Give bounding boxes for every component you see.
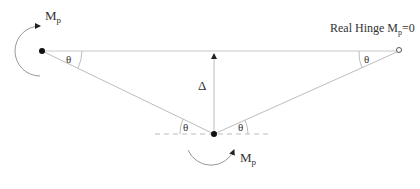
- plastic-hinge-left: [39, 48, 45, 54]
- real-hinge-label: Real Hinge Mp=0: [330, 21, 415, 37]
- angle-arc-left: [78, 51, 82, 68]
- angle-arc-bottom-right: [245, 120, 248, 134]
- plastic-hinge-bottom: [211, 131, 217, 137]
- bottom-moment-label: Mp: [240, 150, 257, 167]
- real-hinge-right: [397, 48, 402, 53]
- angle-arc-right: [359, 51, 362, 68]
- angle-label-right: θ: [364, 53, 369, 65]
- angle-label-left: θ: [66, 53, 71, 65]
- angle-label-bottom-right: θ: [238, 121, 243, 133]
- left-moment-label: Mp: [45, 8, 62, 25]
- bottom-moment-arc: [188, 150, 234, 165]
- collapse-mechanism-diagram: Mp Mp Real Hinge Mp=0 Δ θ θ θ θ: [0, 0, 420, 189]
- deflection-label: Δ: [198, 78, 206, 93]
- angle-label-bottom-left: θ: [183, 121, 188, 133]
- left-moment-arc: [15, 26, 40, 76]
